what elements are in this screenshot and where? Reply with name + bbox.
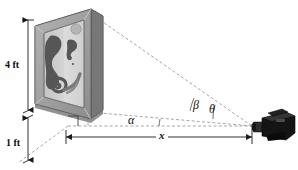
dimension-1ft xyxy=(23,115,33,163)
angle-arcs-group xyxy=(159,98,215,126)
label-distance-x: x xyxy=(156,130,168,141)
video-camera xyxy=(252,109,295,141)
dimension-4ft xyxy=(22,20,34,113)
ground-extension-line xyxy=(18,126,68,163)
label-angle-alpha: α xyxy=(128,114,134,126)
sight-line-bottom xyxy=(88,112,252,126)
camera-button xyxy=(276,119,285,122)
diagram-svg xyxy=(0,0,298,170)
diagram-canvas: 4 ft 1 ft α β θ x xyxy=(0,0,298,170)
arc-alpha xyxy=(159,119,160,126)
frame-side-face xyxy=(91,9,103,119)
label-4ft: 4 ft xyxy=(5,60,19,70)
label-angle-beta: β xyxy=(193,99,199,111)
label-angle-theta: θ xyxy=(209,103,215,115)
framed-artwork xyxy=(35,9,103,123)
sight-line-top xyxy=(100,20,252,126)
label-1ft: 1 ft xyxy=(6,138,20,148)
